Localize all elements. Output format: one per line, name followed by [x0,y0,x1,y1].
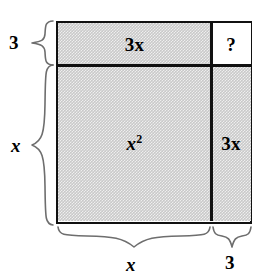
cell-top-right: ? [211,23,251,65]
cell-top-left: 3x [58,23,211,65]
dimension-label-bottom-left: x [126,255,136,274]
brace-left-three [30,20,54,66]
cell-bottom-right: 3x [211,65,251,221]
divider-horizontal [58,64,251,67]
cell-bottom-left-label: x2 [127,133,143,153]
cell-top-left-label: 3x [125,35,144,54]
brace-left-x [30,64,54,226]
dimension-label-left-bottom: x [11,136,21,155]
cell-bottom-left: x2 [58,65,211,221]
brace-bottom-three [212,226,254,250]
dimension-label-bottom-right: 3 [225,253,235,272]
cell-bottom-right-label: 3x [221,134,240,153]
dimension-label-left-top: 3 [9,33,19,52]
cell-bottom-left-exponent: 2 [136,132,142,146]
cell-top-right-label: ? [226,35,236,54]
area-model-diagram: 3x ? x2 3x 3 x [0,0,266,280]
brace-bottom-x [57,226,212,250]
area-model-square: 3x ? x2 3x [56,21,252,224]
divider-vertical [210,23,213,221]
